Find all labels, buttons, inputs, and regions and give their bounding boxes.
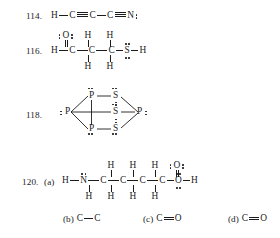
atom-h-terminal: H [139, 46, 146, 55]
lone-pair-p-right [145, 109, 147, 117]
problem-114-chain: H C C C N [51, 11, 134, 20]
lone-pair-p-top [88, 88, 94, 90]
atom-s-bottom: S [111, 124, 120, 133]
atom-p-top: P [87, 91, 96, 100]
atom-n: N [80, 176, 87, 185]
lone-pair-s-top [112, 88, 118, 90]
lone-pair-n-top [81, 173, 87, 175]
bottom-hydrogen-1: H [85, 192, 93, 201]
bond-single [183, 180, 190, 181]
bottom-hydrogen-2: H [106, 62, 114, 71]
document-page: 114. H C C C N 116. O H H [0, 0, 280, 238]
atom-s: S [124, 46, 130, 55]
lone-pair-carbonyl-o-right [182, 163, 184, 171]
atom-h: H [62, 176, 69, 185]
top-hydrogen-1: H [84, 31, 92, 40]
bond-single [147, 180, 158, 181]
bond-single [116, 50, 123, 51]
atom-o-hydroxyl: O [175, 176, 182, 185]
answer-d-label: (d) [228, 214, 239, 224]
answer-c: (c) C O [143, 214, 182, 224]
bond-triple [77, 12, 88, 17]
bond-double [249, 217, 259, 220]
bond-single [108, 180, 119, 181]
phosphorus-sulfide-cage: P P S S P S P [55, 88, 180, 138]
bottom-hydrogen-2: H [107, 192, 115, 201]
problem-120-number: 120. [22, 177, 38, 187]
top-hydrogen-3: H [151, 161, 159, 170]
answer-b: (b) C C [63, 214, 101, 224]
bond-single [59, 15, 68, 16]
atom-h: H [51, 11, 58, 20]
bottom-hydrogen-4: H [151, 192, 159, 201]
bond-single [70, 180, 79, 181]
bottom-hydrogen-3: H [129, 192, 137, 201]
lone-pair-s-bottom [125, 57, 131, 59]
lone-pair-s-top [125, 43, 131, 45]
problem-114-number: 114. [26, 11, 42, 21]
bond-single [96, 50, 107, 51]
atom-c-right: C [94, 214, 100, 223]
carbonyl-oxygen: O [173, 161, 181, 170]
bond-single [97, 15, 106, 16]
atom-c: C [69, 11, 75, 20]
atom-h: H [51, 46, 58, 55]
lone-pair-p-bottom [88, 133, 94, 135]
atom-h-terminal: H [191, 176, 198, 185]
atom-o-right: O [175, 214, 182, 223]
lone-pair-s-bottom [112, 133, 118, 135]
bond-double [164, 217, 174, 220]
top-hydrogen-2: H [129, 161, 137, 170]
problem-120-part-label: (a) [44, 177, 55, 187]
lone-pair-s-middle-top [112, 104, 118, 106]
problem-120-chain: H N C C C C O H [62, 176, 198, 185]
bond-single [77, 50, 88, 51]
atom-p-left: P [63, 107, 72, 116]
atom-c-left: C [77, 214, 83, 223]
bond-single [84, 218, 93, 219]
atom-p-bottom: P [87, 124, 96, 133]
atom-c-left: C [156, 214, 162, 223]
atom-c: C [89, 11, 95, 20]
bond-triple [115, 12, 126, 17]
atom-c: C [107, 11, 113, 20]
problem-118-number: 118. [26, 110, 42, 120]
bond-single [127, 180, 138, 181]
atom-s-top: S [111, 91, 120, 100]
bond-single [59, 50, 68, 51]
top-hydrogen-1: H [107, 161, 115, 170]
lone-pair-o-right [71, 33, 73, 41]
answer-b-label: (b) [63, 214, 74, 224]
lone-pair-carbonyl-o-left [170, 163, 172, 171]
answer-d: (d) C O [228, 214, 267, 224]
lone-pair-p-left [60, 109, 62, 117]
lone-pair-hydroxyl-o-bottom [175, 187, 181, 189]
atom-c-2: C [120, 176, 126, 185]
lone-pair-o-left [59, 33, 61, 41]
atom-c-1: C [100, 176, 106, 185]
atom-c-3: C [140, 176, 146, 185]
bond-single [88, 180, 99, 181]
atom-s-middle: S [111, 107, 120, 116]
atom-c-4: C [159, 176, 165, 185]
atom-p-right: P [135, 107, 144, 116]
lone-pair-n-right [136, 13, 138, 21]
problem-116-chain: H C C C S H [51, 46, 146, 55]
answer-c-label: (c) [143, 214, 153, 224]
atom-c-3: C [108, 46, 114, 55]
substituent-oxygen: O [62, 31, 70, 40]
lone-pair-hydroxyl-o-top [175, 173, 181, 175]
atom-c-left: C [242, 214, 248, 223]
atom-c-2: C [89, 46, 95, 55]
bond-single [131, 50, 138, 51]
atom-c-1: C [69, 46, 75, 55]
atom-o-right: O [260, 214, 267, 223]
atom-n: N [127, 11, 134, 20]
top-hydrogen-2: H [106, 31, 114, 40]
bond-single [167, 180, 174, 181]
bottom-hydrogen-1: H [84, 62, 92, 71]
problem-116-number: 116. [26, 46, 42, 56]
